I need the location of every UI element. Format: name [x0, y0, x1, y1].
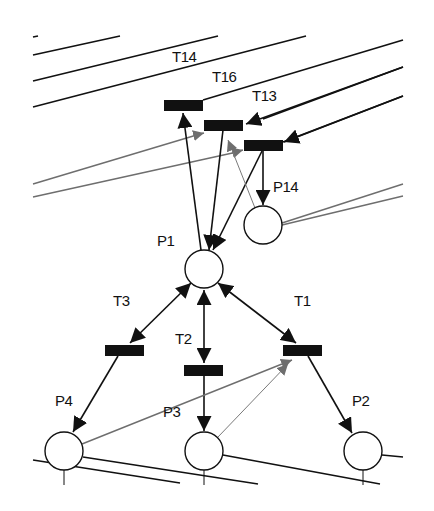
label-p14: P14	[273, 178, 298, 195]
label-p3: P3	[163, 403, 181, 420]
label-t2: T2	[175, 330, 192, 347]
place-p4[interactable]	[45, 432, 83, 470]
transition-t16[interactable]	[204, 120, 243, 131]
label-p2: P2	[352, 392, 370, 409]
label-p4: P4	[55, 392, 73, 409]
label-t1: T1	[294, 292, 311, 309]
transition-t2[interactable]	[184, 365, 223, 376]
transition-t3[interactable]	[105, 345, 144, 356]
place-p14[interactable]	[244, 206, 282, 244]
transition-t1[interactable]	[283, 345, 322, 356]
petri-net-diagram: T14 T16 T13 P14 P1 T3 T1 T2 P4 P3 P2	[0, 0, 434, 511]
label-p1: P1	[157, 232, 175, 249]
label-t14: T14	[172, 48, 197, 65]
transition-t13[interactable]	[244, 140, 283, 151]
place-p1[interactable]	[185, 250, 223, 288]
transition-t14[interactable]	[164, 100, 203, 111]
label-t16: T16	[212, 68, 237, 85]
label-t13: T13	[252, 87, 277, 104]
label-t3: T3	[113, 292, 130, 309]
place-p2[interactable]	[344, 432, 382, 470]
place-p3[interactable]	[185, 432, 223, 470]
